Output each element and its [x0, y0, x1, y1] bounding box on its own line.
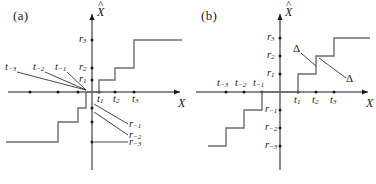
panel-a-leader-lines-t — [17, 72, 86, 90]
panel-a-tick-marks — [29, 39, 136, 144]
panel-b-xtick-tm1: t−1 — [253, 78, 264, 89]
panel-a-xtick-tm3: t−3 — [5, 62, 16, 73]
panel-a-ytick-r2: r2 — [79, 62, 87, 73]
x-hat-glyph: X — [97, 5, 104, 20]
panel-b-ytick-r1: r1 — [267, 68, 275, 79]
panel-b-xtick-t1: t1 — [294, 95, 300, 106]
panel-b-xtick-tm3: t−3 — [217, 78, 228, 89]
panel-b-ytick-r3: r3 — [267, 32, 275, 43]
panel-a-staircase — [6, 40, 182, 142]
panel-a-xtick-tm2: t−2 — [33, 62, 44, 73]
panel-b-xtick-t3: t3 — [330, 95, 336, 106]
panel-a-ytick-r1: r1 — [79, 74, 87, 85]
panel-a-ytick-rm3: r−3 — [129, 137, 141, 148]
panel-b-xtick-t2: t2 — [312, 95, 318, 106]
panel-b-ytick-rm1: r−1 — [265, 104, 277, 115]
panel-a-plot — [0, 0, 188, 184]
panel-a-xtick-tm1: t−1 — [55, 62, 66, 73]
figure-quantizer-characteristics: (a) — [0, 0, 376, 184]
panel-b: (b) — [188, 0, 376, 184]
panel-a-xtick-t3: t3 — [132, 94, 138, 105]
panel-b-plot — [188, 0, 376, 184]
panel-b-x-axis-label: X — [366, 96, 373, 111]
x-hat-glyph: X — [285, 5, 292, 20]
panel-b-ytick-r2: r2 — [267, 50, 275, 61]
panel-a-y-axis-label: X — [97, 5, 104, 20]
panel-a-x-axis-label: X — [178, 96, 185, 111]
panel-b-delta-label-vertical: Δ — [293, 42, 300, 54]
panel-b-ytick-rm2: r−2 — [265, 122, 277, 133]
panel-a-leader-lines-r — [94, 104, 128, 142]
panel-b-delta-label-horizontal: Δ — [346, 72, 353, 84]
panel-b-y-axis-label: X — [285, 5, 292, 20]
panel-b-xtick-tm2: t−2 — [235, 78, 246, 89]
panel-a-xtick-t1: t1 — [97, 94, 103, 105]
panel-a-xtick-t2: t2 — [113, 94, 119, 105]
panel-a-ytick-r3: r3 — [79, 34, 87, 45]
panel-a: (a) — [0, 0, 188, 184]
panel-b-ytick-rm3: r−3 — [265, 140, 277, 151]
